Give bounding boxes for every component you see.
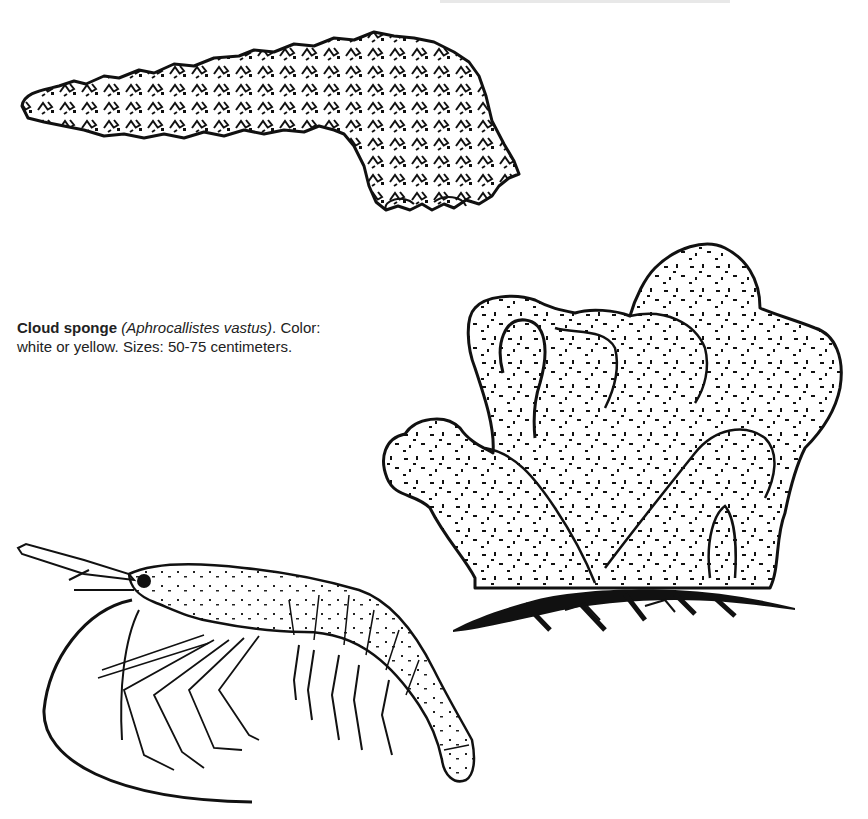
sea-cucumber-drawing <box>14 26 589 216</box>
shrimp-drawing <box>14 540 484 815</box>
top-edge-rule <box>440 0 730 3</box>
shrimp-illustration <box>14 540 484 815</box>
sea-cucumber-illustration <box>14 26 589 216</box>
caption-color-label: . Color: <box>272 319 320 336</box>
shrimp-eye <box>137 574 151 588</box>
scientific-name: (Aphrocallistes vastus) <box>121 319 272 336</box>
common-name: Cloud sponge <box>17 319 117 336</box>
